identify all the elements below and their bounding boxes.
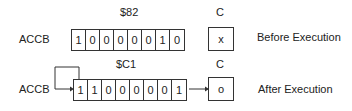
bit: 0 <box>142 30 156 50</box>
after-hex-value: $C1 <box>116 58 136 70</box>
bit: 0 <box>100 30 114 50</box>
before-caption: Before Execution <box>257 31 341 43</box>
bit: 1 <box>72 30 86 50</box>
bit: 0 <box>116 80 130 100</box>
after-register-label: ACCB <box>19 83 50 95</box>
bit: 0 <box>130 80 144 100</box>
before-carry-box: x <box>208 27 234 51</box>
before-register-label: ACCB <box>19 33 50 45</box>
bit: 0 <box>170 30 184 50</box>
before-register: 1 0 0 0 0 0 1 0 <box>71 29 185 51</box>
after-caption: After Execution <box>258 83 333 95</box>
bit: 0 <box>144 80 158 100</box>
before-hex-value: $82 <box>120 6 138 18</box>
bit: 1 <box>74 80 88 100</box>
after-carry-box: o <box>208 77 234 101</box>
bit: 0 <box>114 30 128 50</box>
before-carry-label: C <box>216 6 224 18</box>
bit: 0 <box>158 80 172 100</box>
after-carry-label: C <box>216 58 224 70</box>
bit: 1 <box>172 80 186 100</box>
bit: 0 <box>102 80 116 100</box>
bit: 1 <box>88 80 102 100</box>
bit: 0 <box>128 30 142 50</box>
bit: 1 <box>156 30 170 50</box>
bit: 0 <box>86 30 100 50</box>
after-register: 1 1 0 0 0 0 0 1 <box>73 79 187 101</box>
